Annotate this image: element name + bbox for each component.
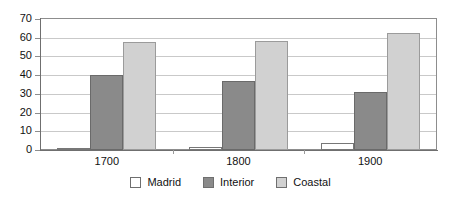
- legend-swatch-coastal-icon: [276, 177, 287, 188]
- bar-madrid-1900: [321, 143, 354, 150]
- y-axis-tick: [35, 131, 40, 132]
- bar-coastal-1900: [387, 33, 420, 150]
- bar-interior-1800: [222, 81, 255, 150]
- bar-coastal-1800: [255, 41, 288, 150]
- y-axis-label: 0: [0, 144, 32, 155]
- bar-interior-1700: [90, 75, 123, 150]
- y-axis-label: 10: [0, 125, 32, 136]
- y-axis-label: 50: [0, 50, 32, 61]
- y-axis-label: 60: [0, 32, 32, 43]
- y-axis-tick: [35, 94, 40, 95]
- bar-madrid-1700: [57, 148, 90, 150]
- y-axis-label: 40: [0, 69, 32, 80]
- y-axis-tick: [35, 56, 40, 57]
- legend-label: Interior: [220, 176, 254, 188]
- bar-madrid-1800: [189, 147, 222, 150]
- legend-swatch-madrid-icon: [130, 177, 141, 188]
- legend-item-interior[interactable]: Interior: [203, 176, 254, 188]
- y-axis-tick: [35, 150, 40, 151]
- x-axis-tick: [304, 150, 305, 154]
- bar-coastal-1700: [123, 42, 156, 150]
- legend-label: Madrid: [147, 176, 181, 188]
- y-axis-label: 30: [0, 88, 32, 99]
- bar-chart: 010203040506070 170018001900 MadridInter…: [0, 0, 461, 201]
- x-axis-tick: [173, 150, 174, 154]
- legend-item-madrid[interactable]: Madrid: [130, 176, 181, 188]
- bar-interior-1900: [354, 92, 387, 150]
- legend-label: Coastal: [293, 176, 330, 188]
- legend-swatch-interior-icon: [203, 177, 214, 188]
- legend-item-coastal[interactable]: Coastal: [276, 176, 330, 188]
- x-axis-label-1800: 1800: [209, 155, 269, 168]
- y-axis-label: 20: [0, 107, 32, 118]
- y-axis-label: 70: [0, 13, 32, 24]
- y-axis-tick: [35, 113, 40, 114]
- chart-legend: MadridInteriorCoastal: [0, 176, 461, 188]
- x-axis-line: [40, 150, 438, 151]
- y-axis-tick: [35, 38, 40, 39]
- x-axis-label-1700: 1700: [77, 155, 137, 168]
- y-axis-tick: [35, 75, 40, 76]
- bars-layer: [41, 19, 436, 150]
- x-axis-label-1900: 1900: [340, 155, 400, 168]
- y-axis-tick: [35, 19, 40, 20]
